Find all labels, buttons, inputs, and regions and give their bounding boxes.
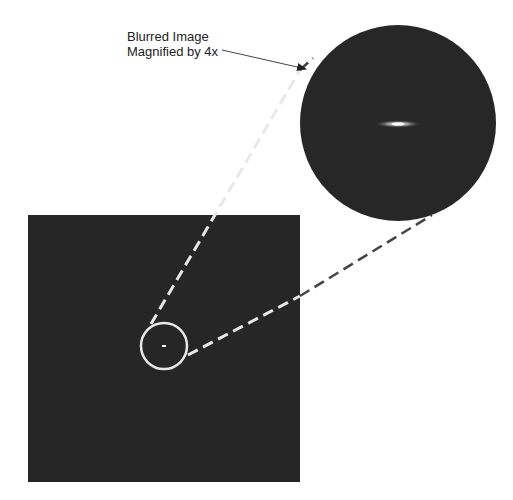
blurred-image (28, 215, 300, 482)
magnified-point-core (392, 122, 404, 125)
annotation-arrow-icon (222, 50, 306, 69)
diagram-canvas (0, 0, 513, 500)
connector-line-lower-outside (300, 215, 432, 296)
point-source (162, 345, 166, 347)
